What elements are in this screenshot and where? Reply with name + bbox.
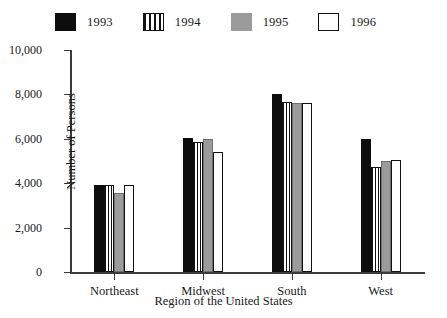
legend-swatch-1995 (231, 13, 252, 31)
x-tick-northeast (114, 274, 115, 280)
bar-group-south (272, 50, 312, 272)
bar-group-west (361, 50, 401, 272)
legend-label-1995: 1995 (263, 15, 289, 30)
y-tick-label: 2,000 (0, 222, 42, 234)
bar-group-midwest (183, 50, 223, 272)
y-tick-2000 (64, 228, 70, 229)
legend-label-1994: 1994 (175, 15, 201, 30)
bar-south-1993 (272, 94, 282, 272)
bars (361, 50, 401, 272)
bar-northeast-1993 (94, 185, 104, 272)
bar-south-1995 (292, 103, 302, 272)
bars (272, 50, 312, 272)
x-tick-west (381, 274, 382, 280)
bar-west-1996 (391, 160, 401, 272)
legend-swatch-1994 (143, 13, 164, 31)
x-axis-line (70, 272, 425, 274)
x-tick-midwest (203, 274, 204, 280)
legend-item-1995: 1995 (231, 13, 289, 31)
bar-midwest-1996 (213, 152, 223, 272)
y-tick-0 (64, 272, 70, 273)
bar-northeast-1994 (104, 185, 114, 272)
x-axis-title: Region of the United States (0, 294, 447, 309)
y-tick-label: 10,000 (0, 44, 42, 56)
plot-area: 02,0004,0006,0008,00010,000 NortheastMid… (70, 50, 425, 272)
legend-label-1993: 1993 (87, 15, 113, 30)
bar-south-1994 (282, 102, 292, 272)
y-tick-label: 6,000 (0, 133, 42, 145)
y-axis-title: Number of Persons (64, 62, 79, 222)
y-tick-label: 4,000 (0, 177, 42, 189)
chart-legend: 1993 1994 1995 1996 (55, 11, 376, 33)
bars (94, 50, 134, 272)
legend-swatch-1996 (318, 13, 339, 31)
bar-south-1996 (302, 103, 312, 272)
legend-label-1996: 1996 (350, 15, 376, 30)
bar-group-northeast (94, 50, 134, 272)
bar-northeast-1995 (114, 193, 124, 272)
bar-west-1993 (361, 139, 371, 272)
legend-swatch-1993 (55, 13, 76, 31)
y-tick-label: 0 (0, 266, 42, 278)
bar-northeast-1996 (124, 185, 134, 272)
legend-item-1993: 1993 (55, 13, 113, 31)
y-tick-label: 8,000 (0, 88, 42, 100)
bars (183, 50, 223, 272)
bar-west-1994 (371, 167, 381, 272)
legend-item-1996: 1996 (318, 13, 376, 31)
bar-midwest-1994 (193, 142, 203, 272)
legend-item-1994: 1994 (143, 13, 201, 31)
x-tick-south (292, 274, 293, 280)
bar-chart: 1993 1994 1995 1996 02,0004,0006,0008,00… (0, 0, 447, 318)
bar-midwest-1993 (183, 138, 193, 272)
bar-west-1995 (381, 161, 391, 272)
y-tick-10000 (64, 50, 70, 51)
bar-midwest-1995 (203, 139, 213, 272)
